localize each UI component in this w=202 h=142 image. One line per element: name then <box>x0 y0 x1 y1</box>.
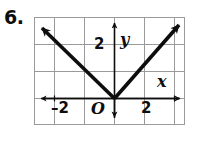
x-axis-tick-label-2: 2 <box>141 101 151 116</box>
coordinate-grid: 2 y x –2 O 2 <box>34 17 185 125</box>
y-axis-label: y <box>120 32 129 47</box>
x-axis-tick-label-neg2: –2 <box>51 101 69 116</box>
x-axis-label: x <box>157 74 167 89</box>
problem-number: 6. <box>4 8 23 27</box>
y-axis-tick-label-2: 2 <box>94 37 104 52</box>
origin-label: O <box>91 101 105 116</box>
math-figure: 6. <box>0 0 202 142</box>
